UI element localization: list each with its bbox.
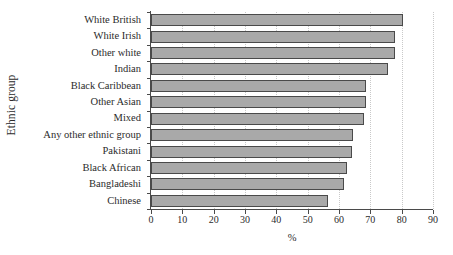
- x-axis-line: [150, 209, 433, 210]
- bar-row: [151, 12, 433, 28]
- y-axis-title-text: Ethnic group: [5, 75, 17, 136]
- x-axis-tick-label: 60: [334, 215, 344, 225]
- y-axis-tick-label: White British: [22, 12, 146, 28]
- y-axis-tick: [147, 111, 151, 112]
- y-axis-tick-label: Other white: [22, 45, 146, 61]
- x-axis-tick-label: 80: [397, 215, 407, 225]
- x-axis-tick-label: 40: [271, 215, 281, 225]
- bar-row: [151, 127, 433, 143]
- y-axis-tick: [147, 78, 151, 79]
- bar: [151, 31, 395, 43]
- y-axis-tick-label: Any other ethnic group: [22, 127, 146, 143]
- y-axis-tick: [147, 12, 151, 13]
- x-axis-tick-label: 50: [303, 215, 313, 225]
- bar-row: [151, 78, 433, 94]
- bar-row: [151, 28, 433, 44]
- bar: [151, 14, 403, 26]
- bar: [151, 178, 344, 190]
- y-axis-tick-label: Mixed: [22, 111, 146, 127]
- y-axis-tick-label: Black Caribbean: [22, 78, 146, 94]
- bar: [151, 80, 366, 92]
- y-axis-tick: [147, 143, 151, 144]
- bar: [151, 195, 328, 207]
- x-axis-tick-label: 30: [240, 215, 250, 225]
- y-axis-tick: [147, 94, 151, 95]
- bar-series: [151, 12, 433, 209]
- y-axis-tick: [147, 193, 151, 194]
- y-axis-title: Ethnic group: [0, 0, 22, 210]
- bar-row: [151, 193, 433, 209]
- x-axis-tick-label: 70: [365, 215, 375, 225]
- bar-row: [151, 94, 433, 110]
- y-axis-tick-label: Black African: [22, 160, 146, 176]
- bar-row: [151, 143, 433, 159]
- y-axis-tick: [147, 127, 151, 128]
- y-axis-tick-label: Other Asian: [22, 94, 146, 110]
- gridline: [433, 12, 435, 209]
- bar: [151, 113, 364, 125]
- y-axis-tick: [147, 28, 151, 29]
- x-axis-title: %: [151, 232, 433, 243]
- y-axis-tick: [147, 209, 151, 210]
- bar: [151, 63, 388, 75]
- y-axis-tick-label: Bangladeshi: [22, 176, 146, 192]
- plot-area: [151, 12, 433, 209]
- bar-chart: Ethnic group White BritishWhite IrishOth…: [0, 0, 453, 255]
- x-axis-tick-label: 90: [428, 215, 438, 225]
- bar-row: [151, 61, 433, 77]
- y-axis-tick-label: Chinese: [22, 193, 146, 209]
- bar: [151, 129, 353, 141]
- bar: [151, 162, 347, 174]
- y-axis-tick-labels: White BritishWhite IrishOther whiteIndia…: [22, 12, 146, 209]
- bar-row: [151, 111, 433, 127]
- x-axis-tick-label: 20: [209, 215, 219, 225]
- y-axis-tick: [147, 45, 151, 46]
- y-axis-tick: [147, 176, 151, 177]
- bar-row: [151, 176, 433, 192]
- bar: [151, 47, 395, 59]
- y-axis-tick-label: Indian: [22, 61, 146, 77]
- bar: [151, 146, 352, 158]
- bar-row: [151, 160, 433, 176]
- bar: [151, 96, 366, 108]
- x-axis-tick-label: 10: [177, 215, 187, 225]
- y-axis-tick-label: White Irish: [22, 28, 146, 44]
- bar-row: [151, 45, 433, 61]
- y-axis-tick: [147, 61, 151, 62]
- y-axis-tick-label: Pakistani: [22, 143, 146, 159]
- x-axis-tick-label: 0: [149, 215, 154, 225]
- y-axis-tick: [147, 160, 151, 161]
